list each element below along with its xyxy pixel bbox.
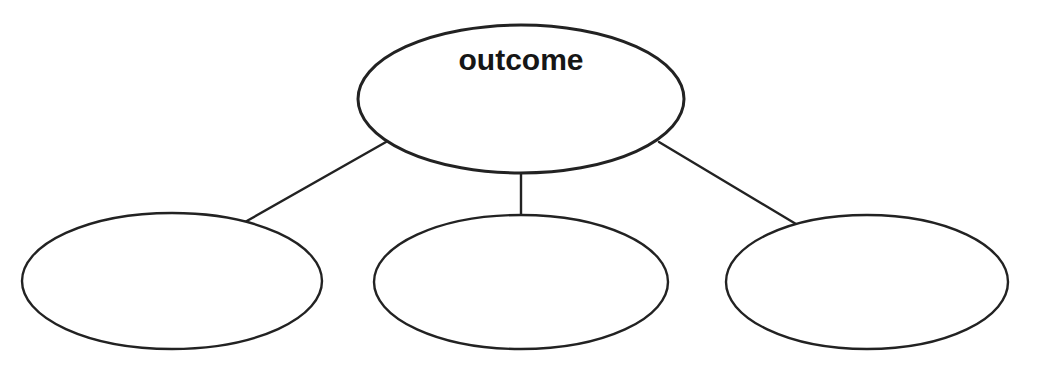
node-ellipse-child-2[interactable] <box>374 215 668 349</box>
connector-root-to-child-1 <box>245 142 386 222</box>
diagram-canvas: outcome <box>0 0 1038 372</box>
node-root[interactable]: outcome <box>358 25 684 173</box>
node-child-3[interactable] <box>726 215 1008 349</box>
node-ellipse-child-1[interactable] <box>22 213 322 349</box>
tree-diagram: outcome <box>0 0 1038 372</box>
node-child-2[interactable] <box>374 215 668 349</box>
node-ellipse-child-3[interactable] <box>726 215 1008 349</box>
node-child-1[interactable] <box>22 213 322 349</box>
node-label-root: outcome <box>458 43 583 76</box>
connector-root-to-child-3 <box>659 142 801 227</box>
